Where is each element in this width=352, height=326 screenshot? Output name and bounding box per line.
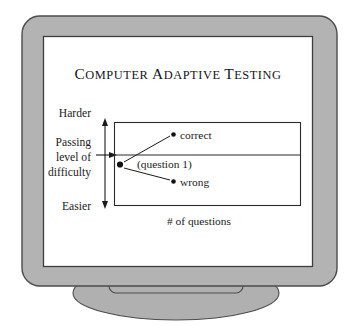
node-root-label: (question 1) xyxy=(137,158,192,171)
title-word-3-cap: T xyxy=(224,65,234,82)
title-word-2-cap: A xyxy=(152,65,164,82)
y-axis-middle-label-line3: difficulty xyxy=(48,166,91,179)
node-wrong-label: wrong xyxy=(180,176,209,188)
y-axis-bottom-label: Easier xyxy=(62,200,91,213)
title-word-1-cap: C xyxy=(74,65,85,82)
y-axis-middle-label: Passing xyxy=(56,136,92,149)
y-axis-top-label: Harder xyxy=(59,107,91,120)
title-word-3-rest: ESTING xyxy=(234,68,281,82)
node-wrong-dot xyxy=(171,179,176,184)
page-title: COMPUTER ADAPTIVE TESTING xyxy=(74,65,281,82)
title-word-2-rest: DAPTIVE xyxy=(164,68,221,82)
node-correct-dot xyxy=(171,132,176,137)
title-word-1-rest: OMPUTER xyxy=(85,68,148,82)
y-axis-middle-label-line2: level of xyxy=(56,151,91,164)
x-axis-label: # of questions xyxy=(167,215,231,227)
monitor-illustration: COMPUTER ADAPTIVE TESTING Harder Passing… xyxy=(0,0,352,326)
node-correct-label: correct xyxy=(180,129,212,141)
node-root-dot xyxy=(117,161,123,167)
